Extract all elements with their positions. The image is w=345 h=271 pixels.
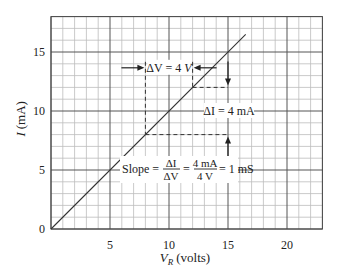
delta-v-label: ΔV = 4 V [146, 61, 193, 75]
grid-minor-lines [51, 17, 322, 229]
equals-sign: = [183, 162, 190, 176]
x-tick-label: 15 [222, 238, 234, 252]
arrowhead-right-icon [137, 65, 144, 71]
slope-fraction1-numerator: ΔI [166, 157, 177, 169]
slope-label: Slope = [122, 162, 159, 176]
slope-annotation: Slope = ΔI ΔV = 4 mA 4 V = 1 mS [120, 156, 254, 183]
y-tick-label: 5 [39, 163, 45, 177]
y-tick-label: 0 [39, 222, 45, 236]
delta-v-annotation: ΔV = 4 V [121, 60, 216, 75]
arrowhead-up-icon [225, 137, 231, 144]
y-tick-label: 10 [33, 104, 45, 118]
y-tick-label: 15 [33, 45, 45, 59]
delta-i-annotation: ΔI = 4 mA [203, 61, 255, 160]
arrowhead-left-icon [194, 65, 201, 71]
delta-i-label: ΔI = 4 mA [203, 104, 255, 118]
chart: 5101520 051015 ΔV = 4 V ΔI = 4 mA Slope … [0, 0, 345, 271]
y-axis-tick-labels: 051015 [33, 45, 45, 236]
slope-fraction2-numerator: 4 mA [193, 157, 218, 169]
x-axis-label: VR(volts) [160, 250, 210, 267]
slope-result: = 1 mS [219, 162, 254, 176]
arrowhead-down-icon [225, 78, 231, 85]
slope-fraction2-denominator: 4 V [197, 170, 213, 182]
y-axis-label: I(mA) [13, 101, 28, 138]
x-tick-label: 5 [107, 238, 113, 252]
x-tick-label: 20 [281, 238, 293, 252]
slope-fraction1-denominator: ΔV [163, 170, 178, 182]
